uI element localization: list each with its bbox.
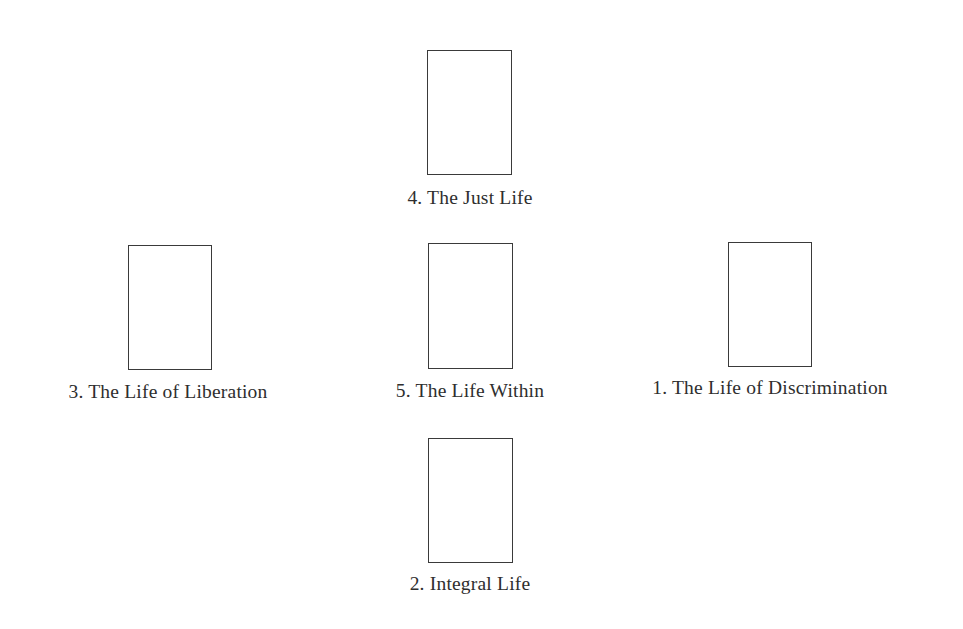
- card-placeholder-5[interactable]: [428, 243, 513, 369]
- card-placeholder-1[interactable]: [728, 242, 812, 367]
- card-placeholder-2[interactable]: [428, 438, 513, 563]
- card-placeholder-3[interactable]: [128, 245, 212, 370]
- card-label-2: 2. Integral Life: [410, 574, 531, 594]
- card-label-4: 4. The Just Life: [407, 188, 532, 208]
- card-label-5: 5. The Life Within: [396, 381, 544, 401]
- card-label-1: 1. The Life of Discrimination: [652, 378, 888, 398]
- card-placeholder-4[interactable]: [427, 50, 512, 175]
- card-label-3: 3. The Life of Liberation: [68, 382, 267, 402]
- card-spread-diagram: 4. The Just Life 3. The Life of Liberati…: [0, 0, 963, 629]
